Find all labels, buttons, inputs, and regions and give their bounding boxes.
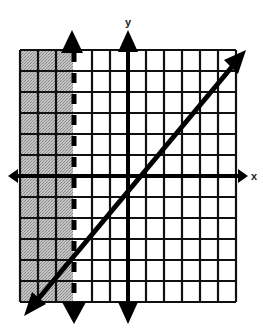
dashed-line-down-arrow-icon [62,302,86,324]
coordinate-graph: x y [0,0,263,332]
dashed-line-up-arrow-icon [61,30,83,53]
x-axis-right-arrow-icon [238,169,248,183]
y-axis-down-arrow-icon [118,302,138,324]
y-axis-label: y [125,16,132,28]
x-axis-left-arrow-icon [8,169,18,183]
x-axis-label: x [251,170,258,182]
y-axis-up-arrow-icon [118,30,138,52]
